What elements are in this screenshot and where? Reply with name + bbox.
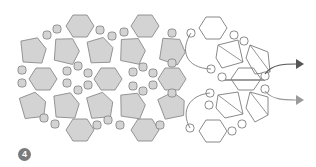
pentagon-tile [21,38,46,63]
connector-curve [186,93,210,128]
hexagon-tile [29,68,57,90]
small-octagon-tile [63,67,71,75]
small-outlined-tile [230,31,238,39]
undefined [246,92,268,122]
small-octagon-tile [129,68,137,76]
hexagon-tile [199,120,227,142]
small-octagon-tile [116,121,124,129]
tessellation-canvas [0,0,316,167]
small-outlined-tile [218,73,226,81]
small-octagon-tile [168,29,176,37]
hexagon-tile [94,68,122,90]
hexagon-tile [231,68,261,90]
undefined [216,92,243,118]
small-octagon-tile [18,66,26,74]
small-octagon-tile [129,82,137,90]
small-octagon-tile [84,69,92,77]
arrow-dark-head [296,59,304,69]
small-octagon-tile [168,89,176,97]
hexagon-tile [66,15,94,37]
small-octagon-tile [84,81,92,89]
hexagon-tile [131,119,159,141]
small-outlined-tile [205,101,213,109]
pentagon-tile [87,92,113,118]
small-outlined-tile [228,127,236,135]
small-octagon-tile [168,59,176,67]
small-octagon-tile [149,81,157,89]
small-octagon-tile [120,28,128,36]
pentagon-tile [121,93,146,119]
small-octagon-tile [51,120,59,128]
small-octagon-tile [18,79,26,87]
undefined [216,40,243,68]
step-number-badge: 4 [18,148,31,161]
pentagon-tile [87,37,113,62]
small-octagon-tile [93,121,101,129]
small-octagon-tile [96,26,104,34]
small-octagon-tile [149,69,157,77]
subdivision-line [250,92,268,115]
hexagon-tile [158,68,186,90]
small-outlined-tile [238,120,246,128]
small-octagon-tile [43,31,51,39]
small-octagon-tile [74,86,82,94]
hexagon-tile [199,17,227,39]
small-octagon-tile [53,25,61,33]
pentagon-tile [121,39,146,65]
hexagon-tile [66,119,94,141]
small-octagon-tile [156,121,164,129]
undefined [246,45,270,74]
hexagon-tile [131,15,159,37]
small-octagon-tile [139,63,147,71]
subdivision-line [218,45,243,62]
small-octagon-tile [74,62,82,70]
pentagon-tile [54,93,79,118]
small-octagon-tile [63,79,71,87]
small-octagon-tile [104,116,112,124]
small-octagon-tile [108,32,116,40]
connector-curve [186,33,211,69]
arrow-light-head [296,95,304,105]
pentagon-tile [54,39,79,65]
arrow-light-line [265,91,296,100]
small-outlined-tile [240,37,248,45]
small-octagon-tile [139,87,147,95]
small-octagon-tile [40,114,48,122]
